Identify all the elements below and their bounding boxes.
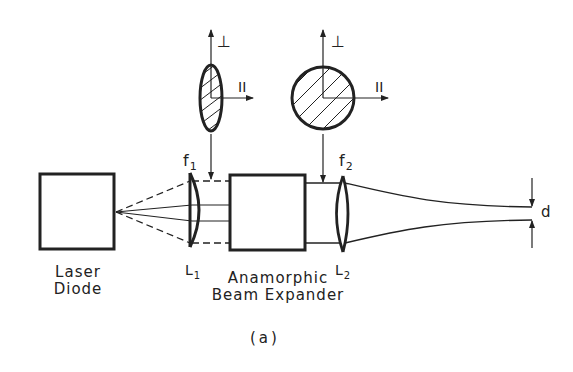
laser-diode-label: Laser Diode bbox=[48, 264, 108, 298]
perp-label-1: ⊥ bbox=[217, 33, 232, 50]
para-label-2: II bbox=[375, 79, 383, 96]
beam-expander-box bbox=[230, 175, 305, 250]
focusing-beam bbox=[345, 183, 532, 243]
focal-label-f1: f1 bbox=[183, 152, 198, 175]
beam-expander-label: Anamorphic Beam Expander bbox=[198, 270, 358, 304]
focal-label-f2: f2 bbox=[339, 152, 354, 175]
diverging-rays bbox=[116, 181, 192, 243]
spot-size-label: d bbox=[541, 204, 552, 221]
laser-diode-box bbox=[40, 174, 114, 249]
figure-caption: (a) bbox=[250, 330, 280, 347]
para-label-1: II bbox=[238, 79, 246, 96]
lens-l2 bbox=[337, 176, 349, 252]
lens-l1 bbox=[190, 173, 199, 247]
expanded-beam bbox=[305, 183, 340, 243]
optical-diagram bbox=[0, 0, 573, 372]
perp-label-2: ⊥ bbox=[331, 33, 346, 50]
